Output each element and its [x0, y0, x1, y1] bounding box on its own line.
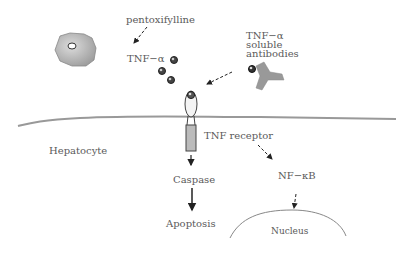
tnf-receptor-label: TNF receptor	[204, 130, 273, 141]
caspase-label: Caspase	[173, 174, 215, 185]
receptor-to-nfkb-arrow	[258, 145, 272, 159]
nucleus-label: Nucleus	[271, 226, 308, 237]
antibodies-label: TNF−α soluble antibodies	[246, 31, 299, 58]
tnf-alpha-label: TNF−α	[127, 53, 165, 64]
pentoxifylline-label: pentoxifylline	[126, 14, 195, 25]
diagram-canvas	[0, 0, 396, 254]
antibody-arrow	[207, 72, 232, 84]
apoptosis-label: Apoptosis	[166, 218, 216, 229]
hepatocyte-label: Hepatocyte	[49, 145, 107, 156]
nfkb-to-nucleus-arrow	[294, 194, 296, 208]
kupffer-cell-icon	[55, 33, 96, 66]
tnf-receptor-icon	[185, 91, 197, 151]
cell-membrane	[18, 116, 396, 126]
antibody-icon	[249, 62, 285, 90]
nfkb-label: NF−κB	[278, 170, 316, 181]
pentoxifylline-arrow	[134, 27, 147, 43]
